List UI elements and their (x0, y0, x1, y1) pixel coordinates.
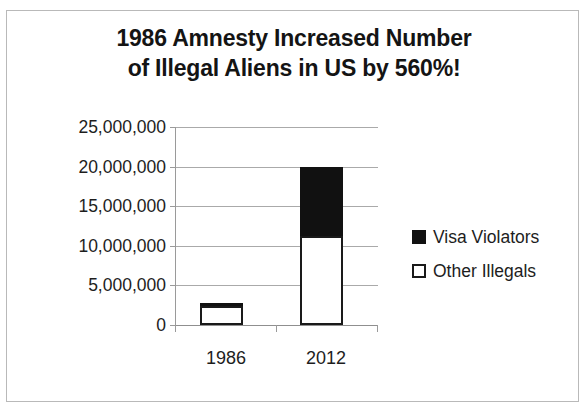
gridline-20000000 (175, 167, 378, 168)
y-tick-20000000 (170, 167, 176, 168)
bar-1986[interactable] (200, 303, 243, 325)
y-tick-5000000 (170, 285, 176, 286)
legend-label-visa-violators: Visa Violators (433, 227, 539, 248)
chart-title-line-2: of Illegal Aliens in US by 560%! (20, 54, 568, 84)
legend-item-visa-violators[interactable]: Visa Violators (412, 220, 539, 254)
y-tick-10000000 (170, 246, 176, 247)
legend-swatch-filled-square-icon (412, 230, 426, 244)
chart-legend: Visa Violators Other Illegals (412, 220, 539, 288)
x-tick-mid (276, 325, 277, 332)
y-tick-label-20000000: 20,000,000 (16, 157, 166, 178)
y-axis-labels: 25,000,000 20,000,000 15,000,000 10,000,… (14, 127, 166, 325)
x-tick-right (377, 325, 378, 332)
bar-segment-1986-other-illegals[interactable] (200, 306, 243, 325)
y-tick-15000000 (170, 206, 176, 207)
bar-segment-2012-visa-violators[interactable] (300, 167, 343, 237)
bar-2012[interactable] (300, 167, 343, 325)
gridline-5000000 (175, 285, 378, 286)
y-tick-label-10000000: 10,000,000 (16, 236, 166, 257)
y-tick-label-15000000: 15,000,000 (16, 196, 166, 217)
y-tick-label-5000000: 5,000,000 (16, 275, 166, 296)
plot-area (175, 127, 378, 325)
chart-screenshot: 1986 Amnesty Increased Number of Illegal… (0, 0, 587, 409)
legend-item-other-illegals[interactable]: Other Illegals (412, 254, 539, 288)
x-axis-label-2012: 2012 (281, 348, 371, 369)
x-axis-label-1986: 1986 (181, 348, 271, 369)
legend-label-other-illegals: Other Illegals (433, 261, 536, 282)
gridline-25000000 (175, 127, 378, 128)
legend-swatch-hollow-square-icon (412, 264, 426, 278)
y-tick-label-0: 0 (16, 315, 166, 336)
y-axis-line (175, 127, 176, 326)
x-tick-left (175, 325, 176, 332)
chart-title-line-1: 1986 Amnesty Increased Number (20, 24, 568, 54)
gridline-15000000 (175, 206, 378, 207)
y-tick-25000000 (170, 127, 176, 128)
gridline-10000000 (175, 246, 378, 247)
chart-title: 1986 Amnesty Increased Number of Illegal… (20, 24, 568, 84)
y-tick-label-25000000: 25,000,000 (16, 117, 166, 138)
bar-segment-2012-other-illegals[interactable] (300, 236, 343, 325)
